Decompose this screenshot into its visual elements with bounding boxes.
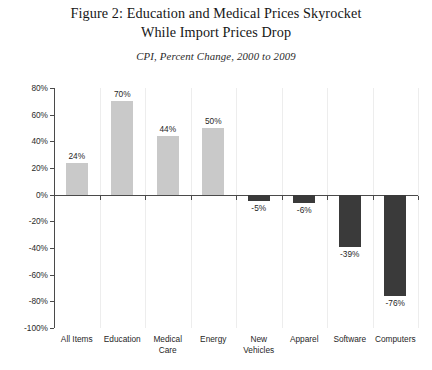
bar-value-label: -39% — [340, 249, 359, 259]
y-axis-tick — [50, 328, 54, 329]
category-gridline — [145, 88, 146, 328]
bar-value-label: 50% — [205, 116, 222, 126]
category-gridline — [418, 88, 419, 328]
y-axis-tick-label: -60% — [29, 270, 48, 280]
y-axis-line — [54, 88, 55, 328]
x-axis-tick — [236, 196, 237, 200]
y-axis-tick-label: -20% — [29, 216, 48, 226]
x-axis-tick — [100, 196, 101, 200]
x-axis-category-label: Energy — [200, 334, 226, 345]
category-gridline — [282, 88, 283, 328]
bar[interactable] — [202, 128, 224, 195]
x-axis-category-label: New Vehicles — [243, 334, 274, 355]
y-axis-tick-label: -100% — [24, 323, 48, 333]
y-axis-tick — [50, 88, 54, 89]
bar-value-label: 70% — [114, 89, 131, 99]
y-axis-tick — [50, 168, 54, 169]
x-axis-category-label: Education — [104, 334, 141, 345]
y-axis-tick-label: 60% — [31, 110, 48, 120]
y-axis-tick — [50, 115, 54, 116]
x-axis-category-label: Computers — [375, 334, 416, 345]
bar-value-label: -5% — [251, 203, 266, 213]
y-axis-tick-label: -40% — [29, 243, 48, 253]
bar[interactable] — [157, 136, 179, 195]
bar-value-label: 44% — [159, 124, 176, 134]
y-axis-tick — [50, 221, 54, 222]
bar[interactable] — [293, 195, 315, 203]
x-axis-tick — [327, 196, 328, 200]
bar[interactable] — [384, 195, 406, 296]
category-gridline — [100, 88, 101, 328]
x-axis-category-label: Medical Care — [153, 334, 182, 355]
bar[interactable] — [339, 195, 361, 247]
bar[interactable] — [111, 101, 133, 194]
bar-value-label: -6% — [297, 205, 312, 215]
x-axis-category-label: Software — [333, 334, 366, 345]
category-gridline — [327, 88, 328, 328]
y-axis-tick-label: -80% — [29, 296, 48, 306]
y-axis-tick — [50, 275, 54, 276]
bar-value-label: 24% — [68, 151, 85, 161]
y-axis-tick — [50, 301, 54, 302]
figure-container: Figure 2: Education and Medical Prices S… — [0, 0, 432, 370]
y-axis-tick-label: 0% — [36, 190, 48, 200]
x-axis-tick — [373, 196, 374, 200]
y-axis-tick — [50, 141, 54, 142]
figure-title-line-2: While Import Prices Drop — [0, 23, 432, 42]
x-axis-category-label: Apparel — [290, 334, 319, 345]
bar[interactable] — [248, 195, 270, 202]
figure-title-block: Figure 2: Education and Medical Prices S… — [0, 4, 432, 64]
category-gridline — [191, 88, 192, 328]
figure-title-line-1: Figure 2: Education and Medical Prices S… — [0, 4, 432, 23]
x-axis-tick — [191, 196, 192, 200]
x-axis-tick — [418, 196, 419, 200]
y-axis-tick — [50, 248, 54, 249]
bar-value-label: -76% — [386, 298, 405, 308]
y-axis-tick-label: 80% — [31, 83, 48, 93]
category-gridline — [373, 88, 374, 328]
y-axis-tick-label: 20% — [31, 163, 48, 173]
y-axis-tick-label: 40% — [31, 136, 48, 146]
x-axis-tick — [282, 196, 283, 200]
x-axis-category-label: All Items — [61, 334, 93, 345]
bar[interactable] — [66, 163, 88, 195]
figure-subtitle: CPI, Percent Change, 2000 to 2009 — [0, 49, 432, 64]
plot-area: 80%60%40%20%0%-20%-40%-60%-80%-100%24%Al… — [54, 88, 418, 328]
category-gridline — [236, 88, 237, 328]
x-axis-tick — [145, 196, 146, 200]
